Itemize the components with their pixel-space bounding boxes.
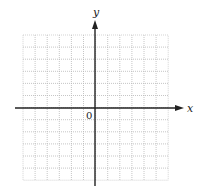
y-axis-arrow-icon: [92, 20, 98, 29]
origin-label: 0: [86, 110, 92, 121]
x-axis-label: x: [187, 102, 194, 115]
y-axis-label: y: [92, 6, 100, 19]
coordinate-plane: x y 0: [0, 0, 200, 195]
x-axis-arrow-icon: [175, 105, 184, 111]
